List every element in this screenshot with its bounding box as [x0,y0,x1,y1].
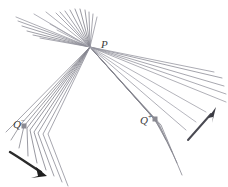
ray-bundle-upper-left [16,12,90,47]
figure-canvas [0,0,228,187]
arrow-right-indicator [188,107,216,140]
point-label-P: P [101,39,108,50]
ray-diagram-figure: P Q− Q+ [0,0,228,187]
marker-Qplus [153,117,158,122]
point-label-Q-minus-base: Q [13,118,21,130]
ray-bundle-lower-right-Qplus [90,47,182,175]
point-label-Q-minus: Q− [13,118,25,130]
point-label-Q-plus-superscript: + [148,113,152,120]
ray-bundle-lower-left-Qminus [6,47,90,186]
point-label-Q-plus-base: Q [140,114,148,126]
point-label-Q-minus-superscript: − [21,117,25,124]
ray-bundle-right-sweep [90,47,226,130]
point-label-Q-plus: Q+ [140,114,152,126]
